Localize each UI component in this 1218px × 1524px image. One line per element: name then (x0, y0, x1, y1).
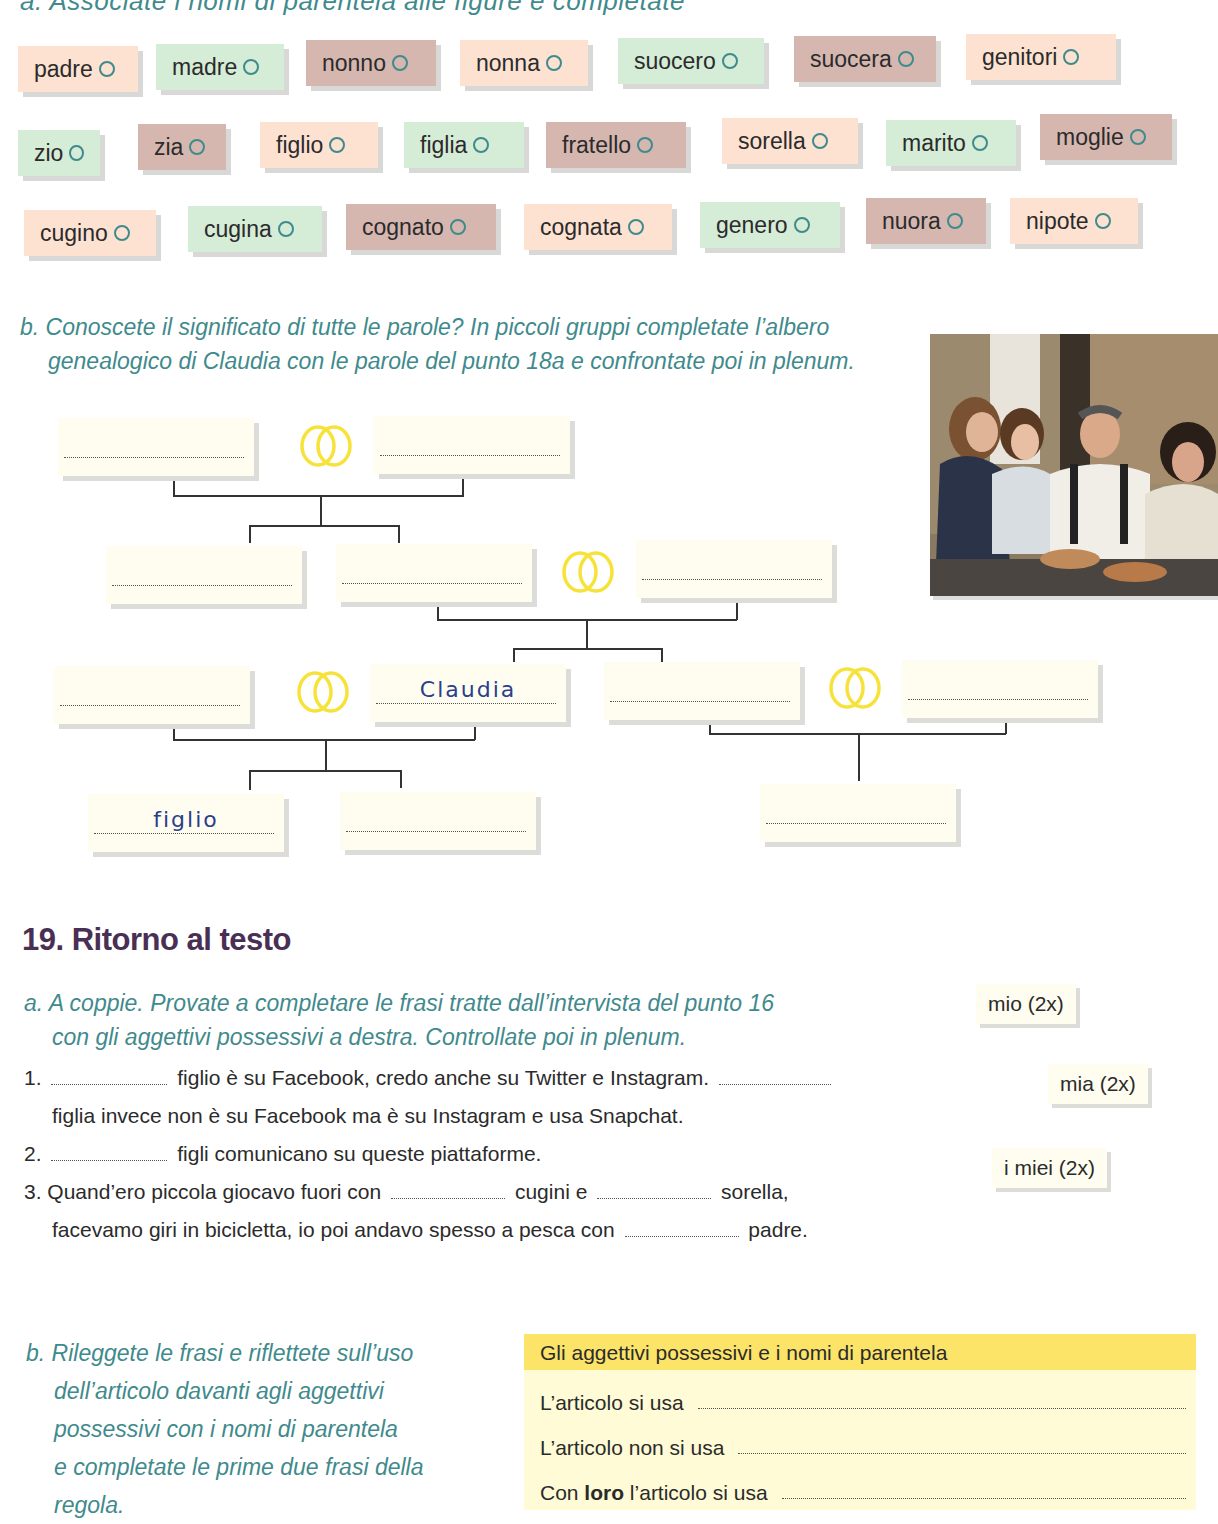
tree-connector (858, 733, 860, 781)
tree-box-line (64, 457, 244, 458)
word-tag-suocero[interactable]: suocero (618, 38, 764, 84)
rule-text: l’articolo si usa (624, 1481, 768, 1504)
word-tag-nonno[interactable]: nonno (306, 40, 436, 86)
answer-circle-icon[interactable] (450, 219, 466, 235)
word-tag-marito[interactable]: marito (886, 120, 1016, 166)
word-tag-padre[interactable]: padre (18, 46, 138, 92)
word-tag-zio[interactable]: zio (18, 130, 100, 176)
word-tag-genero[interactable]: genero (700, 202, 840, 248)
rule-blank-input[interactable] (698, 1408, 1186, 1409)
word-tag-moglie[interactable]: moglie (1040, 114, 1172, 160)
tree-box-gen3-spouse-claudia[interactable] (54, 666, 250, 724)
answer-circle-icon[interactable] (628, 219, 644, 235)
word-tag-label: cugina (204, 216, 272, 243)
word-tag-madre[interactable]: madre (156, 44, 284, 90)
answer-circle-icon[interactable] (898, 51, 914, 67)
sentence-3-text: padre. (748, 1218, 808, 1241)
word-tag-label: cognato (362, 214, 444, 241)
instruction-18a-partial: a. Associate i nomi di parentela alle fi… (20, 0, 685, 17)
wedding-rings-icon (556, 550, 620, 594)
instruction-18b-line1: b. Conoscete il significato di tutte le … (20, 314, 829, 340)
tree-box-gen1-right[interactable] (374, 416, 570, 474)
tree-box-gen4-a[interactable]: figlio (88, 794, 284, 852)
tree-box-line (376, 703, 556, 704)
tree-box-line (346, 831, 526, 832)
answer-circle-icon[interactable] (114, 225, 130, 241)
answer-circle-icon[interactable] (794, 217, 810, 233)
word-tag-cognato[interactable]: cognato (346, 204, 496, 250)
tree-box-gen3-sibling-spouse[interactable] (902, 660, 1098, 718)
answer-circle-icon[interactable] (637, 137, 653, 153)
tree-box-gen2-spouse[interactable] (636, 540, 832, 598)
sentence-1-number: 1. (24, 1066, 42, 1089)
word-tag-cugina[interactable]: cugina (188, 206, 322, 252)
word-tag-cognata[interactable]: cognata (524, 204, 672, 250)
answer-circle-icon[interactable] (546, 55, 562, 71)
tree-connector (474, 722, 476, 740)
answer-circle-icon[interactable] (1063, 49, 1079, 65)
tree-box-line (380, 455, 560, 456)
word-tag-figlia[interactable]: figlia (404, 122, 524, 168)
rule-row: L’articolo non si usa (524, 1415, 1196, 1460)
word-tag-nipote[interactable]: nipote (1010, 198, 1138, 244)
tree-box-gen2-b[interactable] (336, 544, 532, 602)
tree-box-gen4-c[interactable] (760, 784, 956, 842)
sentence-2-text: figli comunicano su queste piattaforme. (177, 1142, 541, 1165)
rule-blank-input[interactable] (782, 1498, 1186, 1499)
answer-circle-icon[interactable] (473, 137, 489, 153)
word-tag-zia[interactable]: zia (138, 124, 226, 170)
blank-input[interactable] (719, 1084, 831, 1085)
answer-circle-icon[interactable] (972, 135, 988, 151)
answer-circle-icon[interactable] (243, 59, 259, 75)
rule-blank-input[interactable] (738, 1453, 1186, 1454)
instruction-19b-line: b. Rileggete le frasi e riflettete sull’… (26, 1340, 413, 1366)
tree-box-gen3-claudia[interactable]: Claudia (370, 664, 566, 722)
answer-circle-icon[interactable] (392, 55, 408, 71)
sentence-3-text: cugini e (515, 1180, 587, 1203)
word-tag-suocera[interactable]: suocera (794, 36, 936, 82)
rule-row-label: L’articolo non si usa (540, 1436, 724, 1460)
blank-input[interactable] (625, 1236, 739, 1237)
tree-connector (173, 495, 464, 497)
answer-circle-icon[interactable] (1130, 129, 1146, 145)
tree-box-gen2-a[interactable] (106, 546, 302, 604)
rule-row: L’articolo si usa (524, 1370, 1196, 1415)
tree-box-gen4-b[interactable] (340, 792, 536, 850)
word-tag-label: suocero (634, 48, 716, 75)
answer-circle-icon[interactable] (947, 213, 963, 229)
tree-box-gen1-left[interactable] (58, 418, 254, 476)
tree-connector (249, 525, 251, 543)
word-tag-cugino[interactable]: cugino (24, 210, 156, 256)
tree-connector (513, 648, 515, 662)
tree-connector (1005, 718, 1007, 734)
answer-circle-icon[interactable] (329, 137, 345, 153)
sentence-1: 1. figlio è su Facebook, credo anche su … (24, 1059, 944, 1097)
answer-circle-icon[interactable] (69, 145, 84, 161)
answer-circle-icon[interactable] (189, 139, 205, 155)
word-tag-label: figlia (420, 132, 467, 159)
tree-connector (586, 619, 588, 649)
blank-input[interactable] (391, 1198, 505, 1199)
tree-box-line (342, 583, 522, 584)
word-tag-fratello[interactable]: fratello (546, 122, 686, 168)
word-tag-label: moglie (1056, 124, 1124, 151)
word-tag-nonna[interactable]: nonna (460, 40, 588, 86)
answer-circle-icon[interactable] (278, 221, 294, 237)
word-tag-label: genero (716, 212, 788, 239)
blank-input[interactable] (597, 1198, 711, 1199)
instruction-18b: b. Conoscete il significato di tutte le … (20, 310, 920, 378)
answer-circle-icon[interactable] (812, 133, 828, 149)
tree-box-gen3-sibling[interactable] (604, 662, 800, 720)
answer-circle-icon[interactable] (1095, 213, 1111, 229)
word-tag-genitori[interactable]: genitori (966, 34, 1116, 80)
word-tag-sorella[interactable]: sorella (722, 118, 858, 164)
answer-circle-icon[interactable] (722, 53, 738, 69)
rule-box-title: Gli aggettivi possessivi e i nomi di par… (524, 1334, 1196, 1370)
grammar-rule-box: Gli aggettivi possessivi e i nomi di par… (524, 1334, 1196, 1510)
word-tag-nuora[interactable]: nuora (866, 198, 986, 244)
word-tag-label: nonno (322, 50, 386, 77)
answer-circle-icon[interactable] (99, 61, 115, 77)
word-tag-figlio[interactable]: figlio (260, 122, 378, 168)
blank-input[interactable] (51, 1160, 167, 1161)
blank-input[interactable] (51, 1084, 167, 1085)
